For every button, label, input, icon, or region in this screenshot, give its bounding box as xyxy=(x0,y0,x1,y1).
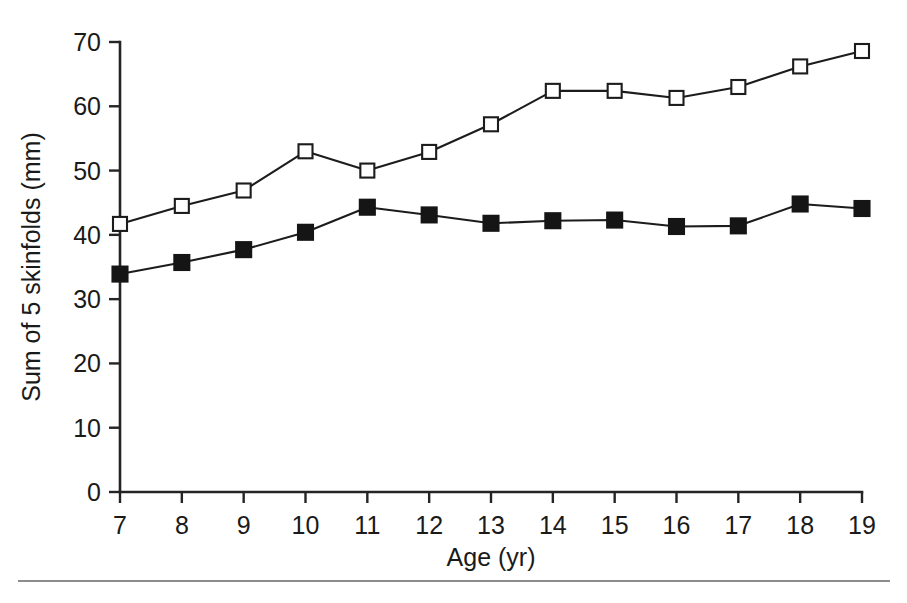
y-axis-title: Sum of 5 skinfolds (mm) xyxy=(17,132,45,402)
y-tick-label: 20 xyxy=(73,349,101,377)
x-tick-label: 18 xyxy=(786,511,814,539)
data-point-filled-square-series-16 xyxy=(669,219,684,234)
x-tick-label: 16 xyxy=(663,511,691,539)
x-tick-label: 11 xyxy=(354,511,380,539)
y-tick-label: 40 xyxy=(73,221,101,249)
y-tick-label: 10 xyxy=(73,414,101,442)
x-tick-label: 7 xyxy=(113,511,127,539)
data-point-open-square-series-8 xyxy=(175,199,189,213)
data-point-filled-square-series-12 xyxy=(422,207,437,222)
y-tick-label: 60 xyxy=(73,92,101,120)
data-point-filled-square-series-9 xyxy=(236,242,251,257)
data-point-filled-square-series-7 xyxy=(113,267,128,282)
data-point-open-square-series-15 xyxy=(608,84,622,98)
x-axis-title: Age (yr) xyxy=(447,543,536,571)
data-point-open-square-series-16 xyxy=(670,91,684,105)
data-point-open-square-series-12 xyxy=(422,145,436,159)
x-tick-label: 14 xyxy=(539,511,567,539)
data-point-open-square-series-10 xyxy=(299,144,313,158)
footer-rule xyxy=(18,580,890,582)
y-tick-label: 30 xyxy=(73,285,101,313)
series-line-open-square-series xyxy=(120,51,862,224)
x-tick-label: 15 xyxy=(601,511,629,539)
x-tick-label: 10 xyxy=(292,511,320,539)
data-point-filled-square-series-19 xyxy=(855,201,870,216)
data-point-open-square-series-11 xyxy=(360,164,374,178)
y-tick-label: 70 xyxy=(73,28,101,56)
data-point-filled-square-series-11 xyxy=(360,200,375,215)
data-point-open-square-series-19 xyxy=(855,44,869,58)
data-point-open-square-series-7 xyxy=(113,217,127,231)
series-line-filled-square-series xyxy=(120,204,862,274)
data-point-open-square-series-14 xyxy=(546,84,560,98)
skinfolds-line-chart: 01020304050607078910111213141516171819Ag… xyxy=(0,0,907,603)
y-tick-label: 50 xyxy=(73,157,101,185)
x-tick-label: 17 xyxy=(724,511,752,539)
data-point-filled-square-series-15 xyxy=(607,213,622,228)
data-point-open-square-series-13 xyxy=(484,117,498,131)
data-point-filled-square-series-10 xyxy=(298,225,313,240)
data-point-filled-square-series-18 xyxy=(793,197,808,212)
data-point-filled-square-series-17 xyxy=(731,218,746,233)
data-point-filled-square-series-8 xyxy=(174,255,189,270)
x-tick-label: 9 xyxy=(237,511,251,539)
data-point-open-square-series-18 xyxy=(793,59,807,73)
y-tick-label: 0 xyxy=(87,478,101,506)
data-point-open-square-series-17 xyxy=(731,80,745,94)
x-tick-label: 8 xyxy=(175,511,189,539)
data-point-filled-square-series-13 xyxy=(484,216,499,231)
figure-container: 01020304050607078910111213141516171819Ag… xyxy=(0,0,907,603)
data-point-filled-square-series-14 xyxy=(545,213,560,228)
x-tick-label: 19 xyxy=(848,511,876,539)
x-tick-label: 12 xyxy=(415,511,443,539)
data-point-open-square-series-9 xyxy=(237,184,251,198)
x-tick-label: 13 xyxy=(477,511,505,539)
